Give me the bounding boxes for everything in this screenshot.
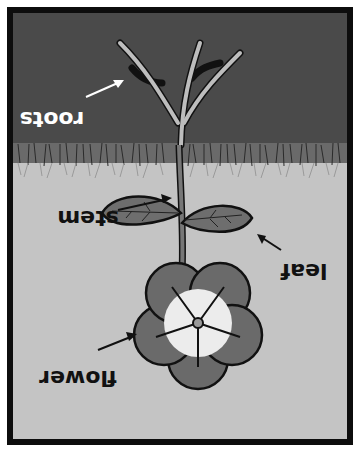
label-flower: flower [39, 366, 117, 391]
label-stem: stem [57, 206, 118, 231]
label-leaf: leaf [280, 259, 327, 284]
plant-parts-diagram: roots stem leaf flower [0, 0, 360, 463]
label-roots: roots [20, 107, 85, 132]
flower-center [193, 318, 203, 328]
